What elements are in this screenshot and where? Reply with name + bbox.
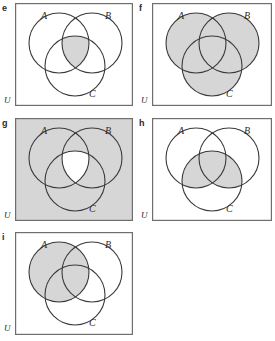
set-label-b-h: B [244,125,250,136]
set-label-c-e: C [89,88,96,99]
venn-diagram-i: A B C [15,232,133,335]
venn-diagram-e: A B C [15,3,133,106]
universe-label-h: U [141,211,148,220]
panel-letter-i: i [2,233,5,242]
set-label-a-e: A [40,10,48,21]
set-label-b-i: B [105,239,111,250]
venn-panel-h: h U A B C [137,115,275,228]
universe-label-e: U [4,96,11,105]
universe-label-g: U [4,211,11,220]
set-label-b-f: B [244,10,250,21]
set-label-c-h: C [226,203,233,214]
venn-figure-sheet: e U A B C f U [0,0,275,341]
panel-letter-f: f [139,4,142,13]
set-label-a-f: A [177,10,185,21]
venn-diagram-f: A B C [152,3,272,106]
set-label-c-f: C [226,88,233,99]
set-label-c-i: C [89,317,96,328]
set-label-c-g: C [89,203,96,214]
panel-letter-g: g [2,119,8,128]
universe-label-f: U [141,96,148,105]
set-label-a-i: A [40,239,48,250]
universe-label-i: U [4,324,11,333]
set-label-b-g: B [105,125,111,136]
panel-letter-h: h [139,119,145,128]
venn-panel-i: i U A B C [0,230,135,341]
venn-diagram-h: A B C [152,118,272,221]
panel-letter-e: e [2,4,7,13]
set-label-a-g: A [40,125,48,136]
set-label-a-h: A [177,125,185,136]
venn-panel-f: f U A B C [137,0,275,113]
venn-panel-g: g U A B C [0,115,135,228]
venn-panel-e: e U A B C [0,0,135,113]
set-label-b-e: B [105,10,111,21]
venn-diagram-g: A B C [15,118,133,221]
